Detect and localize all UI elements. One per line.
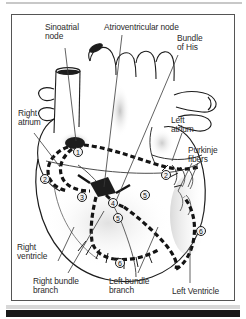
label-right-ventricle: Right ventricle <box>17 243 47 262</box>
marker-5-lower: 5 <box>113 213 123 223</box>
bachmann-bundle <box>84 145 198 169</box>
marker-6-right: 6 <box>196 226 206 236</box>
superior-vena-cava <box>54 71 56 133</box>
label-left-atrium: Left atrium <box>171 116 194 135</box>
pulmonary-loop-2 <box>136 51 156 79</box>
marker-5-upper: 5 <box>140 190 150 200</box>
marker-6-bottom: 6 <box>115 258 125 268</box>
top-divider-rule <box>6 2 242 4</box>
aorta-cut-end <box>88 42 103 54</box>
marker-2-right: 2 <box>40 174 50 184</box>
left-atrium-notch-1 <box>208 97 211 110</box>
atrioventricular-groove <box>46 161 202 173</box>
vessel-right-upper <box>39 88 54 101</box>
label-sinoatrial-node: Sinoatrial node <box>45 23 79 42</box>
label-bundle-of-his: Bundle of His <box>177 34 202 53</box>
label-left-ventricle: Left Ventricle <box>172 287 219 296</box>
figure-frame: Sinoatrial node Atrioventricular node Bu… <box>11 14 235 301</box>
marker-3: 3 <box>77 192 87 202</box>
superior-vena-cava-right-wall <box>79 71 80 127</box>
label-right-atrium: Right atrium <box>18 109 41 128</box>
label-right-bundle-branch: Right bundle branch <box>33 277 79 296</box>
leader-sinoatrial-node <box>65 48 76 141</box>
vessel-right-lower <box>39 108 54 121</box>
bottom-dark-bar <box>6 310 240 317</box>
pulmonary-loop-1 <box>116 53 136 77</box>
bottom-bar-shadow <box>6 305 240 309</box>
page-root: Sinoatrial node Atrioventricular node Bu… <box>0 0 246 319</box>
marker-4: 4 <box>108 198 118 208</box>
marker-2-left: 2 <box>161 170 171 180</box>
av-node-spur-a <box>78 175 90 183</box>
label-left-bundle-branch: Left bundle branch <box>109 277 149 296</box>
label-purkinje-fibers: Purkinje fibers <box>188 146 217 165</box>
label-atrioventricular-node: Atrioventricular node <box>104 23 179 32</box>
leader-left-atrium <box>172 133 182 161</box>
marker-1: 1 <box>73 147 83 157</box>
pulmonary-loop-3 <box>156 52 174 81</box>
